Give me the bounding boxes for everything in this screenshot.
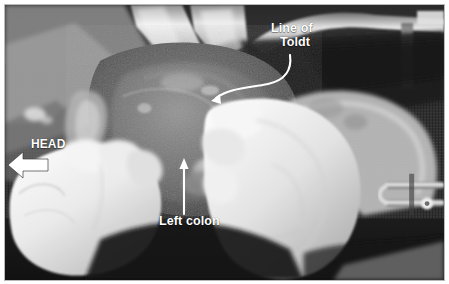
surgical-photograph [4, 4, 445, 281]
figure-root: Line of Toldt Left colon HEAD [0, 0, 449, 284]
photograph-canvas [5, 5, 444, 280]
